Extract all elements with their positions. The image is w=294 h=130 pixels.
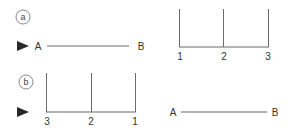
panel-b: b 3 2 1 A B xyxy=(17,73,279,127)
arrow-right-icon xyxy=(17,107,29,117)
scale-label-3: 3 xyxy=(265,51,271,62)
scale-label-2: 2 xyxy=(88,116,94,127)
panel-b-scale: 3 2 1 xyxy=(44,73,138,127)
panel-a-marker: a xyxy=(16,10,30,24)
panel-a-scale: 1 2 3 xyxy=(177,9,271,62)
segment-start-label: A xyxy=(170,107,177,118)
panel-b-segment: A B xyxy=(170,107,279,118)
panel-a-segment: A B xyxy=(35,41,145,52)
panel-a-marker-label: a xyxy=(20,12,25,22)
scale-label-1: 1 xyxy=(177,51,183,62)
panel-a: a A B 1 2 3 xyxy=(16,9,271,62)
panel-b-marker-label: b xyxy=(23,77,28,87)
scale-label-1: 3 xyxy=(44,116,50,127)
scale-label-3: 1 xyxy=(132,116,138,127)
scale-label-2: 2 xyxy=(221,51,227,62)
segment-start-label: A xyxy=(35,41,42,52)
segment-end-label: B xyxy=(272,107,279,118)
arrow-right-icon xyxy=(17,41,29,51)
diagram-canvas: a A B 1 2 3 b 3 2 xyxy=(0,0,294,130)
segment-end-label: B xyxy=(138,41,145,52)
panel-b-marker: b xyxy=(19,75,33,89)
